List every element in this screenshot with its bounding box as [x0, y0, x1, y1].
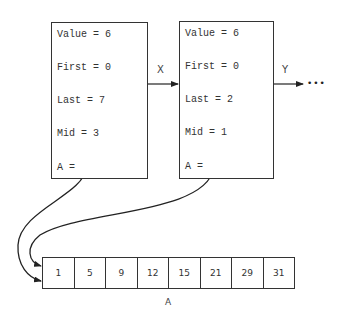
field-value: Value = 6: [57, 29, 111, 41]
array-cell: 9: [106, 258, 138, 288]
pointer-arrow-2: [30, 168, 214, 266]
array-cell: 21: [201, 258, 233, 288]
field-value: Value = 6: [185, 28, 239, 40]
array-cell: 29: [232, 258, 264, 288]
y-label: Y: [282, 64, 288, 75]
field-array-ref: A =: [57, 162, 75, 174]
x-label: X: [157, 64, 164, 75]
stack-frame-1: Value = 6 First = 0 Last = 7 Mid = 3 A =: [51, 22, 148, 179]
array-label: A: [165, 297, 171, 307]
array-cell: 1: [43, 258, 75, 288]
field-array-ref: A =: [185, 161, 203, 173]
array-cell: 5: [75, 258, 107, 288]
ellipsis: •••: [307, 78, 326, 88]
stack-frame-2: Value = 6 First = 0 Last = 2 Mid = 1 A =: [179, 21, 274, 179]
array-cell: 15: [169, 258, 201, 288]
field-mid: Mid = 3: [57, 128, 99, 140]
field-last: Last = 2: [185, 94, 233, 106]
field-mid: Mid = 1: [185, 127, 227, 139]
array-a: 1 5 9 12 15 21 29 31: [42, 257, 295, 289]
array-cell: 31: [264, 258, 295, 288]
field-last: Last = 7: [57, 95, 105, 107]
recursion-diagram: Value = 6 First = 0 Last = 7 Mid = 3 A =…: [0, 0, 343, 316]
field-first: First = 0: [57, 62, 111, 74]
array-cell: 12: [138, 258, 170, 288]
field-first: First = 0: [185, 61, 239, 73]
